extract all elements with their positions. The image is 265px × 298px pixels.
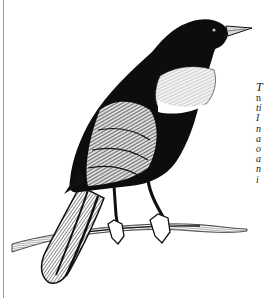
- page: T n ti I n a o a n i: [0, 0, 265, 298]
- eye: [212, 28, 215, 31]
- legs: [108, 180, 170, 244]
- beak: [226, 26, 252, 36]
- cropped-text-column: T n ti I n a o a n i: [256, 81, 265, 185]
- text-line: i: [256, 175, 265, 185]
- tail: [42, 186, 104, 283]
- blackbird-illustration: [0, 0, 265, 298]
- bird-head: [183, 19, 252, 50]
